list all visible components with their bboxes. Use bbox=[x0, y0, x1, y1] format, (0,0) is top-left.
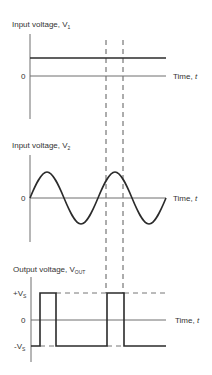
vout-neg-label: -VS bbox=[14, 342, 26, 352]
panel-vout-title: Output voltage, VOUT bbox=[13, 265, 85, 275]
panel-v2-title: Input voltage, V2 bbox=[12, 141, 71, 151]
vout-pos-label: +VS bbox=[13, 289, 27, 299]
panel-vout: Output voltage, VOUT +VS 0 -VS Time, t bbox=[13, 265, 200, 362]
v1-zero-label: 0 bbox=[21, 72, 26, 81]
v1-time-label: Time, t bbox=[173, 72, 198, 81]
v2-time-label: Time, t bbox=[173, 194, 198, 203]
vout-time-label: Time, t bbox=[175, 316, 200, 325]
panel-v1: Input voltage, V1 0 Time, t bbox=[12, 20, 198, 119]
panel-v1-title: Input voltage, V1 bbox=[12, 20, 71, 30]
panel-v2: Input voltage, V2 0 Time, t bbox=[12, 141, 198, 242]
vout-zero-label: 0 bbox=[21, 316, 26, 325]
timing-diagram: Input voltage, V1 0 Time, t Input voltag… bbox=[0, 0, 212, 375]
v2-zero-label: 0 bbox=[21, 194, 26, 203]
